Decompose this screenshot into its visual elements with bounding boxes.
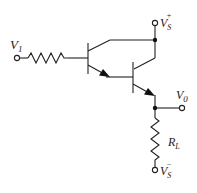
v0-terminal xyxy=(179,105,184,110)
q2-emitter-arrow-icon xyxy=(144,88,155,96)
junction-dot-output xyxy=(153,106,157,110)
vs-positive-label: VS+ xyxy=(160,11,172,32)
v1-label: V1 xyxy=(10,37,22,54)
v1-terminal xyxy=(14,55,19,60)
vs-negative-terminal xyxy=(152,167,157,172)
vs-negative-label: VS− xyxy=(160,160,172,180)
junction-dot-supply xyxy=(153,38,157,42)
darlington-circuit-schematic: V1 VS+ V0 RL VS− xyxy=(0,0,197,193)
vs-positive-terminal xyxy=(152,20,157,25)
v0-label: V0 xyxy=(176,88,188,104)
q1-transistor xyxy=(88,40,110,75)
rl-label: RL xyxy=(167,135,180,151)
input-resistor xyxy=(28,53,68,63)
q1-emitter-arrow-icon xyxy=(99,69,110,77)
load-resistor xyxy=(151,118,159,167)
